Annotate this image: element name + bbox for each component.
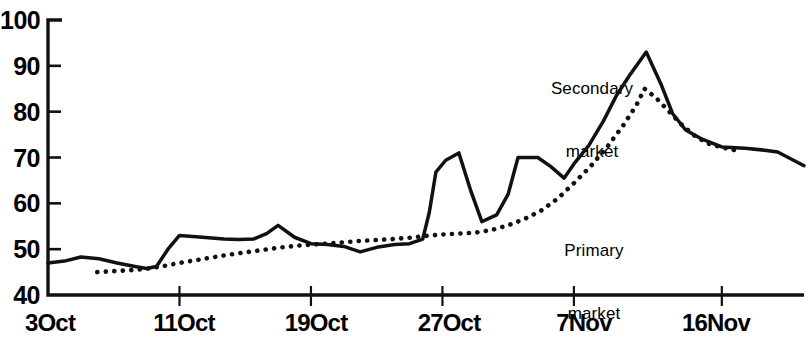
y-axis-ticks: [48, 66, 61, 249]
plot-area: [0, 0, 812, 339]
primary-market-line: [97, 89, 735, 272]
axes: [48, 20, 804, 306]
axis-spines: [48, 20, 804, 295]
chart-container: 100 90 80 70 60 50 40 3Oct 11Oct 19Oct 2…: [0, 0, 812, 339]
